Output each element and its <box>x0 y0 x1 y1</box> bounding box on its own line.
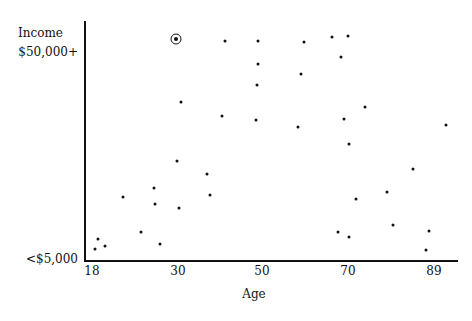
data-point <box>176 160 179 163</box>
data-point <box>347 35 350 38</box>
data-point <box>122 196 125 199</box>
x-tick-label: 50 <box>254 264 269 278</box>
data-point <box>94 248 97 251</box>
data-point <box>255 119 258 122</box>
y-axis-line <box>84 21 86 262</box>
data-point <box>256 84 259 87</box>
x-tick-label: 70 <box>340 264 355 278</box>
data-point <box>180 101 183 104</box>
data-point <box>392 224 395 227</box>
data-point <box>340 56 343 59</box>
y-tick-label: $50,000+ <box>18 45 78 59</box>
x-axis-title: Age <box>242 287 265 301</box>
x-tick-label: 30 <box>170 264 185 278</box>
data-point <box>300 73 303 76</box>
data-point <box>221 115 224 118</box>
data-point <box>206 173 209 176</box>
data-point <box>348 143 351 146</box>
data-point <box>154 203 157 206</box>
data-point <box>343 118 346 121</box>
data-point <box>428 230 431 233</box>
data-point <box>297 126 300 129</box>
data-point <box>140 231 143 234</box>
data-point <box>303 41 306 44</box>
data-point <box>178 207 181 210</box>
data-point <box>337 231 340 234</box>
data-point <box>355 198 358 201</box>
data-point <box>159 243 162 246</box>
data-point <box>386 191 389 194</box>
data-point <box>174 37 178 41</box>
x-tick-label: 89 <box>426 264 441 278</box>
data-point <box>104 245 107 248</box>
x-tick-label: 18 <box>84 264 99 278</box>
data-point <box>153 187 156 190</box>
x-axis-line <box>84 260 458 262</box>
data-point <box>97 238 100 241</box>
data-point <box>209 194 212 197</box>
data-point <box>257 63 260 66</box>
data-point <box>257 40 260 43</box>
data-point <box>364 106 367 109</box>
data-point <box>331 36 334 39</box>
data-point <box>412 168 415 171</box>
data-point <box>224 40 227 43</box>
data-point <box>425 249 428 252</box>
data-point <box>348 236 351 239</box>
data-point <box>445 124 448 127</box>
y-tick-label: <$5,000 <box>26 252 78 266</box>
y-axis-title: Income <box>18 26 63 40</box>
